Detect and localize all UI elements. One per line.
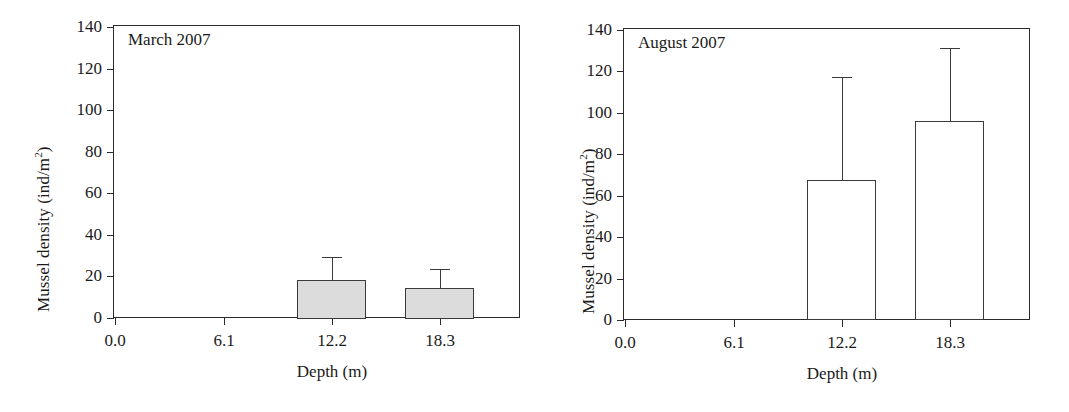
- y-tick-120: [617, 71, 624, 72]
- y-axis-title-superscript: 2: [32, 152, 44, 158]
- y-tick-label-100: 100: [556, 103, 612, 123]
- y-tick-label-20: 20: [57, 266, 102, 286]
- panel-title-march: March 2007: [128, 30, 211, 50]
- error-cap-march-18.3: [430, 269, 450, 270]
- y-tick-100: [107, 110, 114, 111]
- x-tick-label-6.1: 6.1: [184, 331, 264, 351]
- y-tick-80: [107, 152, 114, 153]
- x-tick-label-18.3: 18.3: [910, 333, 990, 353]
- y-tick-60: [617, 196, 624, 197]
- error-cap-march-12.2: [322, 257, 342, 258]
- x-tick-label-12.2: 12.2: [292, 331, 372, 351]
- y-tick-label-120: 120: [556, 61, 612, 81]
- y-tick-40: [107, 235, 114, 236]
- y-tick-140: [107, 27, 114, 28]
- y-tick-label-60: 60: [57, 183, 102, 203]
- y-tick-label-80: 80: [567, 144, 612, 164]
- y-tick-80: [617, 154, 624, 155]
- x-tick-18.3: [440, 318, 441, 325]
- y-tick-0: [107, 318, 114, 319]
- y-tick-label-0: 0: [57, 308, 102, 328]
- error-stem-march-12.2: [332, 257, 333, 281]
- y-tick-100: [617, 113, 624, 114]
- bar-march-12.2: [297, 280, 366, 319]
- x-tick-6.1: [224, 318, 225, 325]
- x-tick-label-12.2: 12.2: [802, 333, 882, 353]
- x-tick-12.2: [332, 318, 333, 325]
- error-cap-august-18.3: [940, 48, 960, 49]
- y-axis-title: Mussel density (ind/m2): [34, 146, 54, 312]
- x-tick-label-0.0: 0.0: [75, 331, 155, 351]
- bar-august-18.3: [915, 121, 984, 320]
- y-tick-0: [617, 320, 624, 321]
- y-tick-label-40: 40: [567, 227, 612, 247]
- error-cap-august-12.2: [832, 77, 852, 78]
- y-tick-label-100: 100: [46, 100, 102, 120]
- panel-title-august: August 2007: [638, 33, 725, 53]
- plot-frame: [113, 25, 520, 318]
- y-tick-60: [107, 193, 114, 194]
- y-tick-label-80: 80: [57, 142, 102, 162]
- y-tick-140: [617, 30, 624, 31]
- panel-march-2007: Mussel density (ind/m2) March 2007 0 20 …: [0, 0, 535, 412]
- y-axis-title-text: Mussel density (ind/m: [34, 158, 53, 312]
- x-axis-title: Depth (m): [747, 364, 937, 384]
- y-tick-label-60: 60: [567, 186, 612, 206]
- x-tick-18.3: [950, 320, 951, 327]
- x-tick-0.0: [115, 318, 116, 325]
- panel-august-2007: Mussel density (ind/m2) August 2007 0 20…: [535, 0, 1069, 412]
- y-tick-label-140: 140: [556, 20, 612, 40]
- error-stem-august-12.2: [842, 77, 843, 180]
- y-tick-40: [617, 237, 624, 238]
- x-tick-label-6.1: 6.1: [694, 333, 774, 353]
- x-tick-0.0: [625, 320, 626, 327]
- x-tick-12.2: [842, 320, 843, 327]
- x-tick-label-0.0: 0.0: [585, 333, 665, 353]
- y-tick-label-0: 0: [567, 310, 612, 330]
- x-tick-6.1: [734, 320, 735, 327]
- y-tick-20: [617, 279, 624, 280]
- y-tick-label-120: 120: [46, 59, 102, 79]
- x-tick-label-18.3: 18.3: [400, 331, 480, 351]
- bar-august-12.2: [807, 180, 876, 320]
- y-axis-title-tail: ): [34, 146, 53, 152]
- y-tick-label-40: 40: [57, 225, 102, 245]
- bar-march-18.3: [405, 288, 474, 319]
- error-stem-march-18.3: [440, 269, 441, 289]
- y-tick-label-140: 140: [46, 17, 102, 37]
- figure-two-panel-bar-chart: Mussel density (ind/m2) March 2007 0 20 …: [0, 0, 1069, 412]
- error-stem-august-18.3: [950, 48, 951, 121]
- y-tick-20: [107, 276, 114, 277]
- y-tick-120: [107, 69, 114, 70]
- y-tick-label-20: 20: [567, 269, 612, 289]
- x-axis-title: Depth (m): [237, 362, 427, 382]
